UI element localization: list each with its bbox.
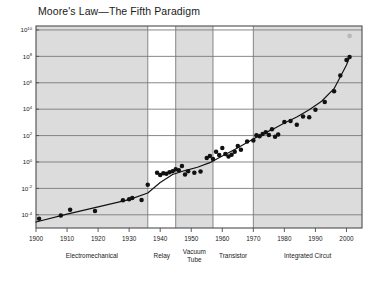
data-point-s0-6: [130, 196, 135, 201]
data-point-s0-3: [93, 209, 98, 214]
y-axis-tick-label-4: 102: [23, 131, 33, 138]
data-point-s0-17: [180, 164, 185, 169]
data-point-s0-25: [214, 149, 219, 154]
data-point-s0-47: [301, 114, 306, 119]
data-point-s0-41: [270, 127, 275, 132]
era-label-4: Integrated Circut: [284, 252, 331, 260]
x-axis-tick-label-6: 1960: [215, 235, 230, 242]
chart-container: Moore's Law—The Fifth Paradigm 101010810…: [0, 0, 371, 284]
y-axis-tick-label-2: 106: [23, 79, 33, 86]
x-axis-tick-label-8: 1980: [277, 235, 292, 242]
era-label-2-line2: Tube: [187, 256, 202, 263]
data-point-s0-50: [322, 100, 327, 105]
data-point-s0-16: [177, 168, 182, 173]
data-point-s0-27: [220, 146, 225, 151]
data-point-s0-35: [251, 138, 256, 143]
data-point-s0-46: [295, 123, 300, 128]
x-axis-tick-label-7: 1970: [246, 235, 261, 242]
x-axis-tick-label-3: 1930: [122, 235, 137, 242]
x-axis-tick-label-1: 1910: [60, 235, 75, 242]
data-point-s0-31: [232, 149, 237, 154]
data-point-s0-7: [139, 198, 144, 203]
data-point-s1-0: [347, 34, 352, 39]
y-axis-tick-label-5: 100: [23, 158, 33, 165]
era-label-1: Relay: [154, 252, 171, 260]
data-point-s0-51: [332, 89, 337, 94]
data-point-s0-32: [236, 144, 241, 149]
data-point-s0-24: [211, 157, 216, 162]
x-axis-tick-label-10: 2000: [339, 235, 354, 242]
data-point-s0-2: [68, 208, 73, 213]
y-axis-tick-label-6: 10-2: [21, 184, 32, 191]
data-point-s0-48: [307, 115, 312, 120]
data-point-s0-45: [288, 119, 293, 124]
data-point-s0-0: [37, 217, 42, 222]
x-axis-tick-label-2: 1920: [91, 235, 106, 242]
data-point-s0-43: [276, 132, 281, 137]
y-axis-tick-label-7: 10-4: [21, 211, 32, 218]
data-point-s0-40: [267, 133, 272, 138]
data-point-s0-54: [347, 55, 352, 60]
y-axis-tick-label-0: 1010: [20, 26, 32, 33]
data-point-s0-8: [146, 182, 151, 187]
era-label-3: Transistor: [219, 252, 248, 259]
data-point-s0-21: [198, 169, 203, 174]
data-point-s0-52: [338, 73, 343, 78]
data-point-s0-1: [59, 213, 64, 218]
data-point-s0-4: [121, 198, 126, 203]
x-axis-tick-label-0: 1900: [29, 235, 44, 242]
era-label-2-line1: Vacuum: [183, 248, 206, 255]
x-axis-tick-label-4: 1940: [153, 235, 168, 242]
data-point-s0-34: [245, 139, 250, 144]
era-label-0: Electromechanical: [66, 252, 118, 259]
x-axis-tick-label-9: 1990: [308, 235, 323, 242]
data-point-s0-18: [183, 172, 188, 177]
data-point-s0-49: [313, 108, 318, 113]
data-point-s0-20: [192, 171, 197, 176]
chart-plot-svg: 101010810610410210010-210-4 190019101920…: [0, 0, 371, 284]
era-labels-group: ElectromechanicalRelayVacuumTubeTransist…: [66, 248, 332, 263]
y-axis-tick-label-1: 108: [23, 52, 33, 59]
x-axis-ticks: 1900191019201930194019501960197019801990…: [29, 228, 354, 242]
data-point-s0-44: [282, 120, 287, 125]
data-point-s0-33: [239, 148, 244, 153]
data-point-s0-26: [217, 153, 222, 158]
y-axis-tick-label-3: 104: [23, 105, 33, 112]
x-axis-tick-label-5: 1950: [184, 235, 199, 242]
data-point-s0-19: [186, 169, 191, 174]
